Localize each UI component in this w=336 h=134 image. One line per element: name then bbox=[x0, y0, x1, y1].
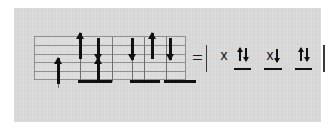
orbital-diagram bbox=[34, 36, 186, 80]
arrow-head bbox=[94, 57, 102, 64]
determinant-bar-right bbox=[323, 45, 324, 72]
equals-sign: = bbox=[192, 48, 203, 67]
figure-root: = x bbox=[0, 0, 336, 134]
spin-arrow-down bbox=[128, 38, 137, 60]
connector-stem bbox=[112, 45, 113, 82]
arrow-head bbox=[128, 54, 136, 61]
arrow-shaft bbox=[306, 48, 308, 61]
term-underline bbox=[234, 68, 251, 70]
term-underline bbox=[295, 68, 312, 70]
spin-arrow-up bbox=[76, 33, 85, 59]
spin-arrow-up bbox=[94, 58, 103, 82]
grid-vtick bbox=[144, 37, 145, 45]
spin-arrow-up bbox=[54, 58, 63, 84]
arrow-shaft bbox=[239, 48, 241, 61]
term-glyphs: x bbox=[220, 47, 228, 63]
arrow-shaft bbox=[276, 49, 278, 62]
spin-arrow-down bbox=[166, 38, 175, 60]
grid-hline bbox=[34, 45, 186, 46]
grid-hline bbox=[34, 36, 186, 37]
grid-vtick bbox=[112, 37, 113, 45]
arrow-head bbox=[76, 32, 84, 39]
term-glyphs: x bbox=[266, 47, 280, 63]
term-label: x bbox=[220, 47, 227, 63]
connector-stem bbox=[144, 45, 145, 82]
arrow-head bbox=[166, 54, 174, 61]
term-underline bbox=[264, 68, 282, 70]
grid-hline bbox=[34, 54, 186, 55]
spin-down-icon bbox=[243, 47, 249, 62]
occupancy-bar bbox=[164, 80, 196, 83]
arrow-head bbox=[54, 57, 62, 64]
arrow-shaft bbox=[245, 48, 247, 61]
spin-down-icon bbox=[274, 48, 280, 63]
term-label: x bbox=[266, 47, 273, 63]
determinant-term: x bbox=[216, 47, 232, 69]
arrow-head bbox=[148, 32, 156, 39]
spin-down-icon bbox=[304, 47, 310, 62]
determinant-bar-left bbox=[206, 45, 207, 72]
determinant-term bbox=[293, 47, 314, 69]
determinant-term bbox=[232, 47, 253, 69]
arrow-shaft bbox=[300, 48, 302, 61]
determinant-term: x bbox=[262, 47, 284, 69]
term-glyphs bbox=[297, 47, 310, 62]
spin-arrow-up bbox=[148, 33, 157, 59]
occupancy-bar bbox=[130, 80, 160, 83]
determinant-expression: x x bbox=[206, 43, 325, 73]
term-glyphs bbox=[236, 47, 249, 62]
